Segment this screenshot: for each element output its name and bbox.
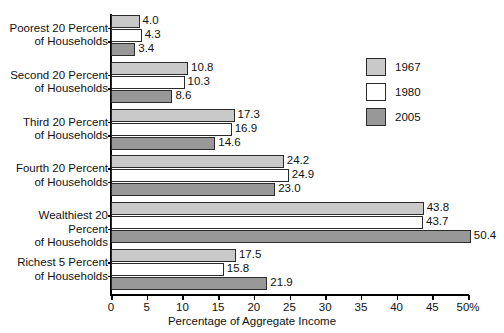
category-label: Second 20 Percentof Households <box>0 69 108 96</box>
bar-value-label: 4.0 <box>140 14 159 27</box>
bar-value-label: 14.6 <box>215 136 240 149</box>
bar-1980 <box>111 76 185 89</box>
bar-row: 24.9 <box>111 169 468 182</box>
legend-item: 1967 <box>366 54 476 79</box>
bar-1967 <box>111 202 424 215</box>
bar-2005 <box>111 230 471 243</box>
x-axis-tick <box>111 295 113 300</box>
category-label: Poorest 20 Percentof Households <box>0 22 108 49</box>
bar-value-label: 3.4 <box>135 42 154 55</box>
legend: 196719802005 <box>366 54 476 129</box>
legend-swatch <box>366 58 386 76</box>
legend-swatch <box>366 108 386 126</box>
x-axis-tick <box>147 295 149 300</box>
category-label-line: of Households <box>0 176 108 190</box>
bar-value-label: 50.4 <box>471 229 496 242</box>
bar-value-label: 10.8 <box>188 61 213 74</box>
bar-row: 4.0 <box>111 15 468 28</box>
x-axis-tick-label: 20 <box>247 301 260 313</box>
x-axis-tick <box>254 295 256 300</box>
bar-value-label: 17.3 <box>235 108 260 121</box>
x-axis-tick <box>432 295 434 300</box>
bar-row: 23.0 <box>111 183 468 196</box>
bar-row: 24.2 <box>111 155 468 168</box>
bar-1967 <box>111 155 284 168</box>
bar-row: 15.8 <box>111 263 468 276</box>
category-label-column: Poorest 20 Percentof HouseholdsSecond 20… <box>0 14 108 295</box>
bar-value-label: 23.0 <box>275 182 300 195</box>
bar-2005 <box>111 90 172 103</box>
bar-value-label: 17.5 <box>236 248 261 261</box>
x-axis-tick <box>325 295 327 300</box>
bar-value-label: 21.9 <box>267 276 292 289</box>
bar-2005 <box>111 183 275 196</box>
legend-swatch <box>366 83 386 101</box>
bar-1967 <box>111 62 188 75</box>
legend-item: 2005 <box>366 104 476 129</box>
legend-label: 2005 <box>395 111 421 123</box>
x-axis-title: Percentage of Aggregate Income <box>0 315 504 327</box>
bar-group: 24.224.923.0 <box>111 155 468 197</box>
bar-row: 43.7 <box>111 216 468 229</box>
bar-group: 17.515.821.9 <box>111 249 468 291</box>
bar-chart: Poorest 20 Percentof HouseholdsSecond 20… <box>0 0 504 333</box>
bar-value-label: 16.9 <box>232 122 257 135</box>
x-axis-tick-label: 50% <box>456 301 479 313</box>
bar-value-label: 8.6 <box>172 89 191 102</box>
x-axis-tick <box>290 295 292 300</box>
category-label-line: Poorest 20 Percent <box>0 22 108 36</box>
x-axis-tick <box>468 295 470 300</box>
bar-row: 50.4 <box>111 230 468 243</box>
bar-1980 <box>111 123 232 136</box>
bar-value-label: 43.8 <box>424 201 449 214</box>
category-label-line: of Households <box>0 236 108 250</box>
category-label-line: Third 20 Percent <box>0 116 108 130</box>
bar-value-label: 24.9 <box>289 168 314 181</box>
legend-label: 1967 <box>395 61 421 73</box>
category-label-line: Wealthiest 20 Percent <box>0 209 108 236</box>
bar-group: 4.04.33.4 <box>111 15 468 57</box>
bar-row: 43.8 <box>111 202 468 215</box>
x-axis-tick-label: 30 <box>319 301 332 313</box>
bar-row: 21.9 <box>111 277 468 290</box>
category-label-line: Second 20 Percent <box>0 69 108 83</box>
category-label-line: Fourth 20 Percent <box>0 162 108 176</box>
x-axis-tick <box>397 295 399 300</box>
x-axis-tick-label: 35 <box>354 301 367 313</box>
bar-row: 4.3 <box>111 29 468 42</box>
bar-2005 <box>111 43 135 56</box>
bar-row: 17.5 <box>111 249 468 262</box>
x-axis-tick-label: 5 <box>143 301 149 313</box>
x-axis-tick-label: 10 <box>176 301 189 313</box>
bar-row: 14.6 <box>111 137 468 150</box>
bar-value-label: 24.2 <box>284 154 309 167</box>
bar-value-label: 4.3 <box>142 28 161 41</box>
category-label: Richest 5 Percentof Households <box>0 256 108 283</box>
x-axis-tick-label: 45 <box>426 301 439 313</box>
category-label: Third 20 Percentof Households <box>0 116 108 143</box>
bar-2005 <box>111 277 267 290</box>
category-label-line: of Households <box>0 35 108 49</box>
category-label-line: Richest 5 Percent <box>0 256 108 270</box>
x-axis-ticks: 05101520253035404550% <box>111 295 468 317</box>
x-axis-tick-label: 40 <box>390 301 403 313</box>
bar-1980 <box>111 29 142 42</box>
category-label-line: of Households <box>0 82 108 96</box>
bar-1980 <box>111 263 224 276</box>
bar-1980 <box>111 169 289 182</box>
category-label-line: of Households <box>0 270 108 284</box>
bar-group: 43.843.750.4 <box>111 202 468 244</box>
bar-value-label: 43.7 <box>423 215 448 228</box>
x-axis-tick <box>218 295 220 300</box>
bar-value-label: 15.8 <box>224 262 249 275</box>
bar-1967 <box>111 109 235 122</box>
legend-label: 1980 <box>395 86 421 98</box>
category-label: Wealthiest 20 Percentof Households <box>0 209 108 250</box>
category-label-line: of Households <box>0 129 108 143</box>
bar-2005 <box>111 137 215 150</box>
x-axis-tick <box>182 295 184 300</box>
bar-value-label: 10.3 <box>185 75 210 88</box>
x-axis-tick <box>361 295 363 300</box>
legend-item: 1980 <box>366 79 476 104</box>
bar-1967 <box>111 15 140 28</box>
